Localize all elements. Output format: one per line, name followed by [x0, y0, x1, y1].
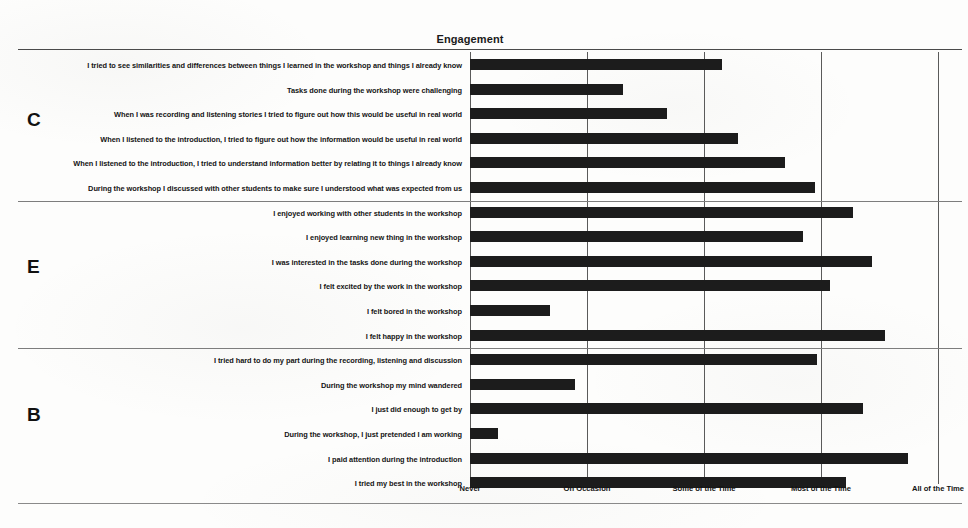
bar-row: I tried hard to do my part during the re… — [0, 354, 968, 366]
bar-category-label: During the workshop, I just pretended I … — [7, 430, 462, 439]
bar — [470, 182, 815, 193]
bar — [470, 403, 863, 414]
group-separator — [18, 201, 962, 202]
bar-category-label: During the workshop my mind wandered — [7, 380, 462, 389]
bar-row: I felt bored in the workshop — [0, 305, 968, 317]
bar-row: I just did enough to get by — [0, 403, 968, 415]
bar — [470, 354, 817, 365]
group-separator — [18, 348, 962, 349]
x-tick-label-3: Most of the Time — [791, 484, 851, 493]
bar-category-label: I tried to see similarities and differen… — [7, 61, 462, 70]
bar — [470, 330, 885, 341]
bar — [470, 133, 738, 144]
bar-row: I tried to see similarities and differen… — [0, 59, 968, 71]
bar — [470, 477, 846, 488]
bar-category-label: When I was recording and listening stori… — [7, 110, 462, 119]
bar-category-label: I felt bored in the workshop — [7, 307, 462, 316]
plot-bottom-border — [18, 503, 962, 504]
bar-category-label: I was interested in the tasks done durin… — [7, 257, 462, 266]
bar-category-label: I paid attention during the introduction — [7, 454, 462, 463]
bar-row: During the workshop I discussed with oth… — [0, 182, 968, 194]
bar — [470, 428, 498, 439]
bar — [470, 108, 667, 119]
bar-category-label: I just did enough to get by — [7, 405, 462, 414]
bar-row: I was interested in the tasks done durin… — [0, 256, 968, 268]
bar-category-label: I tried hard to do my part during the re… — [7, 356, 462, 365]
bar-row: When I was recording and listening stori… — [0, 108, 968, 120]
bar-category-label: I felt excited by the work in the worksh… — [7, 282, 462, 291]
bar-row: I felt excited by the work in the worksh… — [0, 280, 968, 292]
bar — [470, 157, 785, 168]
bar — [470, 280, 830, 291]
bar — [470, 453, 908, 464]
bar-category-label: I enjoyed learning new thing in the work… — [7, 233, 462, 242]
x-tick-label-2: Some of the Time — [672, 484, 735, 493]
x-tick-label-0: Never — [459, 484, 480, 493]
bar-row: I paid attention during the introduction — [0, 453, 968, 465]
engagement-bar-chart: Engagement I tried to see similarities a… — [0, 0, 968, 528]
bar — [470, 84, 623, 95]
bar-category-label: I tried my best in the workshop — [7, 479, 462, 488]
bar-row: Tasks done during the workshop were chal… — [0, 84, 968, 96]
bar — [470, 379, 575, 390]
bar-category-label: I felt happy in the workshop — [7, 331, 462, 340]
bar — [470, 231, 803, 242]
bar — [470, 256, 872, 267]
bar-row: I enjoyed working with other students in… — [0, 207, 968, 219]
bar-category-label: I enjoyed working with other students in… — [7, 208, 462, 217]
plot-top-border — [18, 49, 962, 50]
bar-row: When I listened to the introduction, I t… — [0, 133, 968, 145]
group-letter-e: E — [27, 256, 40, 278]
bar — [470, 305, 550, 316]
bar-category-label: During the workshop I discussed with oth… — [7, 184, 462, 193]
bar-row: During the workshop, I just pretended I … — [0, 428, 968, 440]
bar-row: During the workshop my mind wandered — [0, 379, 968, 391]
bar-category-label: Tasks done during the workshop were chal… — [7, 85, 462, 94]
group-letter-c: C — [27, 109, 41, 131]
bar-category-label: When I listened to the introduction, I t… — [7, 134, 462, 143]
x-tick-label-1: On Occasion — [564, 484, 611, 493]
bar-row: When I listened to the introduction, I t… — [0, 157, 968, 169]
bar — [470, 207, 853, 218]
bar — [470, 59, 722, 70]
x-tick-label-4: All of the Time — [912, 484, 964, 493]
group-letter-b: B — [27, 404, 41, 426]
bar-row: I felt happy in the workshop — [0, 330, 968, 342]
chart-title: Engagement — [0, 33, 940, 45]
bar-category-label: When I listened to the introduction, I t… — [7, 159, 462, 168]
bar-row: I enjoyed learning new thing in the work… — [0, 231, 968, 243]
